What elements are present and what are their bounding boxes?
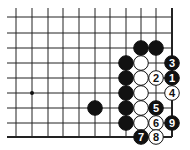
move-number: 4 <box>169 87 176 99</box>
star-point <box>30 91 34 95</box>
black-stone-move-9: 9 <box>165 116 180 131</box>
black-stone <box>119 56 134 71</box>
go-board: 123456789 <box>0 0 190 150</box>
black-stone <box>119 116 134 131</box>
white-stone-move-2: 2 <box>149 71 164 86</box>
move-number: 7 <box>138 131 144 143</box>
white-stone <box>134 101 149 116</box>
black-stone-move-1: 1 <box>165 71 180 86</box>
black-stone <box>119 86 134 101</box>
black-stone <box>149 41 164 56</box>
move-number: 8 <box>153 131 159 143</box>
black-stone <box>119 71 134 86</box>
white-stone <box>134 86 149 101</box>
white-stone <box>134 56 149 71</box>
move-number: 3 <box>169 57 175 69</box>
black-stone <box>88 101 103 116</box>
black-stone <box>119 101 134 116</box>
black-stone-move-7: 7 <box>134 130 149 145</box>
move-number: 2 <box>153 72 159 84</box>
black-stone <box>134 41 149 56</box>
star-points <box>30 91 34 95</box>
move-number: 6 <box>153 117 159 129</box>
board-grid <box>7 8 172 137</box>
white-stone-move-8: 8 <box>149 130 164 145</box>
white-stone <box>134 116 149 131</box>
move-number: 9 <box>169 117 175 129</box>
move-number: 5 <box>153 102 159 114</box>
white-stone-move-6: 6 <box>149 116 164 131</box>
black-stone-move-5: 5 <box>149 101 164 116</box>
black-stone-move-3: 3 <box>165 56 180 71</box>
white-stone-move-4: 4 <box>165 86 180 101</box>
white-stone <box>134 71 149 86</box>
move-number: 1 <box>169 72 175 84</box>
